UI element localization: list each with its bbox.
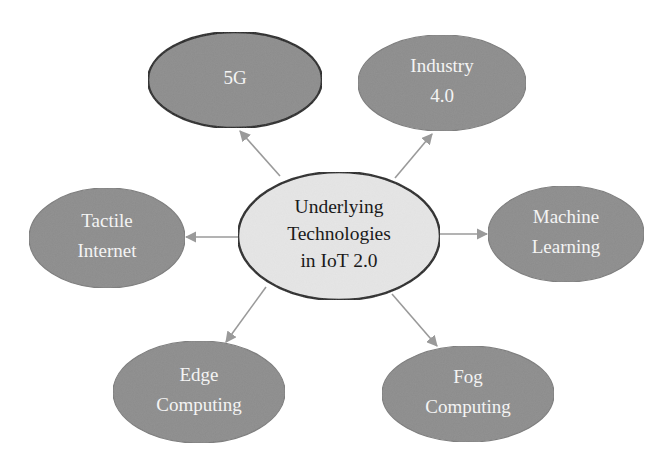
node-label-line: Edge	[179, 364, 218, 385]
node-label-line: Machine	[533, 206, 599, 227]
node-ellipse	[29, 188, 185, 288]
arrow-to-5g	[240, 131, 280, 176]
node-label-line: Technologies	[287, 223, 391, 244]
technology-mind-map: 5GIndustry4.0TactileInternetMachineLearn…	[0, 0, 669, 463]
node-industry-4-0: Industry4.0	[358, 35, 526, 131]
node-ellipse	[113, 341, 285, 443]
node-label-line: Computing	[156, 394, 242, 415]
node-machine-learning: MachineLearning	[488, 186, 644, 282]
node-label-line: in IoT 2.0	[300, 250, 377, 271]
node-5g: 5G	[148, 32, 322, 128]
node-label-line: Internet	[77, 240, 137, 261]
arrow-to-edge-computing	[226, 287, 266, 342]
node-center: UnderlyingTechnologiesin IoT 2.0	[238, 172, 440, 300]
node-label-line: Fog	[453, 366, 483, 387]
node-label-line: Tactile	[81, 210, 132, 231]
node-label-line: 5G	[223, 67, 247, 88]
node-label-line: Underlying	[295, 196, 384, 217]
node-edge-computing: EdgeComputing	[113, 341, 285, 443]
arrow-to-industry-4-0	[395, 134, 432, 178]
node-label-line: Learning	[532, 236, 601, 257]
node-label-line: Industry	[410, 55, 474, 76]
node-label-line: Computing	[425, 396, 511, 417]
node-ellipse	[358, 35, 526, 131]
node-tactile-internet: TactileInternet	[29, 188, 185, 288]
node-fog-computing: FogComputing	[382, 346, 554, 442]
node-ellipse	[488, 186, 644, 282]
node-ellipse	[382, 346, 554, 442]
node-label-line: 4.0	[430, 85, 454, 106]
center-layer: UnderlyingTechnologiesin IoT 2.0	[238, 172, 440, 300]
arrow-to-fog-computing	[392, 294, 437, 346]
